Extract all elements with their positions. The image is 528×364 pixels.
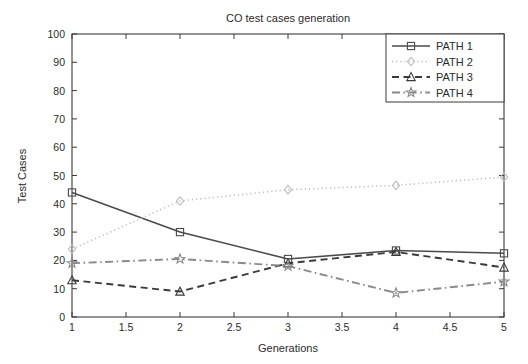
- data-point-marker: [175, 254, 185, 263]
- series-path-2: [68, 173, 507, 254]
- x-tick-label: 2.5: [227, 321, 242, 333]
- x-axis-label: Generations: [258, 342, 318, 354]
- y-tick-label: 70: [53, 113, 65, 125]
- x-tick-label: 4.5: [443, 321, 458, 333]
- y-tick-label: 60: [53, 141, 65, 153]
- chart-plot: CO test cases generation Test Cases Gene…: [0, 0, 528, 364]
- y-tick-label: 80: [53, 85, 65, 97]
- x-tick-label: 1: [69, 321, 75, 333]
- x-tick-label: 3.5: [335, 321, 350, 333]
- series-path-3: [68, 248, 508, 296]
- y-tick-label: 0: [59, 311, 65, 323]
- data-series-layer: [67, 173, 509, 297]
- series-path-1: [68, 189, 507, 263]
- y-tick-label: 30: [53, 226, 65, 238]
- series-path-4: [67, 254, 509, 297]
- y-tick-label: 40: [53, 198, 65, 210]
- x-tick-label: 5: [501, 321, 507, 333]
- x-tick-label: 1.5: [119, 321, 134, 333]
- y-tick-label: 20: [53, 254, 65, 266]
- y-tick-label: 90: [53, 56, 65, 68]
- y-axis-label: Test Cases: [16, 148, 28, 203]
- chart-title: CO test cases generation: [226, 12, 350, 24]
- legend-label: PATH 3: [436, 71, 473, 83]
- legend-label: PATH 2: [436, 56, 473, 68]
- y-tick-label: 50: [53, 170, 65, 182]
- chart-legend[interactable]: PATH 1PATH 2PATH 3PATH 4: [386, 34, 504, 102]
- x-tick-label: 4: [393, 321, 399, 333]
- figure-canvas: CO test cases generation Test Cases Gene…: [0, 0, 528, 364]
- series-line: [72, 177, 504, 249]
- y-tick-label: 10: [53, 283, 65, 295]
- x-tick-label: 3: [285, 321, 291, 333]
- x-tick-label: 2: [177, 321, 183, 333]
- legend-label: PATH 1: [436, 40, 473, 52]
- series-line: [72, 192, 504, 259]
- y-tick-label: 100: [47, 28, 65, 40]
- legend-label: PATH 4: [436, 87, 473, 99]
